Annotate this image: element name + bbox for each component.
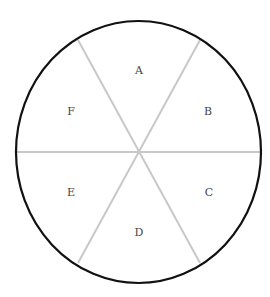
- sector-label-d: D: [135, 226, 144, 239]
- sector-label-b: B: [204, 105, 212, 118]
- sector-label-e: E: [67, 186, 75, 199]
- sector-label-a: A: [134, 64, 144, 77]
- sector-label-c: C: [205, 186, 213, 199]
- sector-wheel: A B C D E F: [0, 0, 270, 297]
- sector-label-f: F: [67, 105, 75, 118]
